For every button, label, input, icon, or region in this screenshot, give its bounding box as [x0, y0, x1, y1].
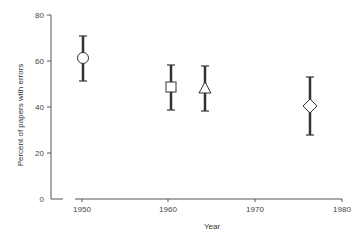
data-point-1960-square [166, 65, 176, 110]
y-axis-label: Percent of papers with errors [16, 64, 25, 167]
x-tick-1980: 1980 [333, 205, 351, 214]
y-tick-60: 60 [35, 57, 44, 66]
data-point-1950-circle [78, 36, 89, 81]
circle-marker-icon [78, 53, 89, 64]
x-tick-1960: 1960 [159, 205, 177, 214]
data-point-1976-diamond [303, 77, 317, 135]
diamond-marker-icon [303, 99, 317, 113]
x-tick-1950: 1950 [73, 205, 91, 214]
y-tick-80: 80 [35, 11, 44, 20]
data-point-1964-triangle [199, 66, 211, 111]
triangle-marker-icon [199, 82, 211, 93]
x-tick-1970: 1970 [246, 205, 264, 214]
x-axis-label: Year [204, 222, 221, 231]
y-tick-40: 40 [35, 103, 44, 112]
error-rate-chart: 80 60 40 20 0 Percent of papers with err… [0, 0, 363, 244]
y-tick-0: 0 [40, 195, 45, 204]
y-axis: 80 60 40 20 0 Percent of papers with err… [16, 11, 51, 204]
square-marker-icon [166, 82, 176, 92]
x-axis: 1950 1960 1970 1980 Year [51, 199, 351, 231]
y-tick-20: 20 [35, 149, 44, 158]
